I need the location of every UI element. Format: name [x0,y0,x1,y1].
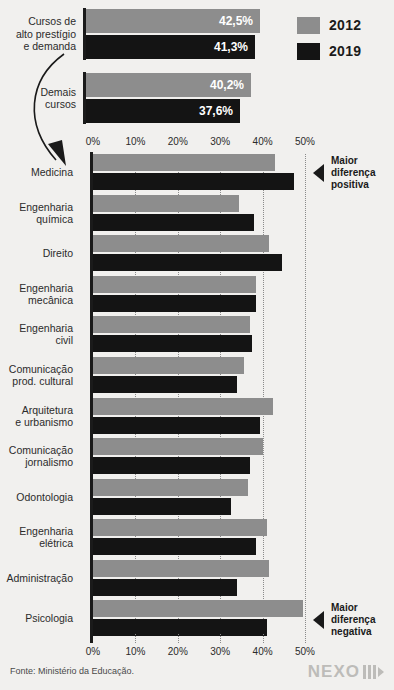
bar-row-group [93,154,305,195]
bar-row-group [93,519,305,560]
summary-bar-value-2012: 42,5% [219,14,253,28]
callout-maior-diferenca-positiva: Maior diferença positiva [313,155,391,191]
category-label-line: Engenharia [19,282,73,294]
category-label: Psicologia [0,612,73,624]
category-label-line: jornalismo [25,456,73,468]
triangle-left-icon [313,164,324,182]
bar-row-group [93,357,305,398]
summary-group-demais: Demais cursos 40,2% 37,6% [0,72,290,124]
legend-swatch-2012 [297,17,320,34]
category-label-line: química [36,213,73,225]
x-tick-mark [305,634,306,643]
x-tick-label: 20% [168,646,188,657]
category-label: Medicina [0,166,73,178]
category-label: Engenhariacivil [0,322,73,346]
callout-text: Maior diferença negativa [331,602,391,638]
category-label: Comunicaçãoprod. cultural [0,363,73,387]
bar-row-group [93,438,305,479]
bar-2019 [93,457,250,474]
x-tick-label: 0% [86,646,100,657]
bar-row-group [93,316,305,357]
category-label-line: Comunicação [9,363,73,375]
x-tick-label: 40% [253,136,273,147]
category-label: Comunicaçãojornalismo [0,444,73,468]
nexo-triangle-icon [378,667,384,677]
legend-item-2019: 2019 [297,40,392,62]
main-chart: 0%10%20%30%40%50% MedicinaEngenhariaquím… [0,132,394,662]
x-tick-mark [135,634,136,643]
bar-2019 [93,538,256,555]
bar-2012 [93,479,248,496]
bar-2012 [93,560,269,577]
summary-label-prestigio: Cursos de alto prestígio e demanda [0,15,83,53]
x-tick-label: 40% [253,646,273,657]
bar-2012 [93,357,244,374]
category-label-line: Administração [6,572,73,584]
bar-row-group [93,235,305,276]
x-tick-label: 20% [168,136,188,147]
bar-row-group [93,560,305,601]
category-label-line: mecânica [28,294,73,306]
chart-legend: 2012 2019 [297,14,392,66]
category-label-line: prod. cultural [12,375,73,387]
category-label: Engenhariaelétrica [0,525,73,549]
bar-2012 [93,519,267,536]
category-label: Odontologia [0,491,73,503]
summary-bar-value-2012: 40,2% [210,78,244,92]
category-label: Direito [0,247,73,259]
summary-bar-2019: 41,3% [86,35,255,59]
summary-label-line2: cursos [45,98,76,110]
plot-area [93,154,305,641]
summary-label-line1: Cursos de [28,15,76,27]
summary-label-line3: e demanda [23,40,76,52]
x-tick-label: 30% [210,646,230,657]
bar-2019 [93,173,294,190]
x-tick-mark [220,634,221,643]
bar-2012 [93,235,269,252]
summary-bars-demais: 40,2% 37,6% [86,72,290,124]
legend-label-2012: 2012 [329,17,361,33]
category-label-line: Direito [43,247,73,259]
bar-2012 [93,154,275,171]
bar-2012 [93,316,250,333]
x-axis-ticks-top: 0%10%20%30%40%50% [93,136,305,150]
bar-2019 [93,214,254,231]
callout-text: Maior diferença positiva [331,155,391,191]
bar-row-group [93,479,305,520]
summary-label-line2: alto prestígio [16,28,76,40]
x-tick-label: 50% [295,136,315,147]
x-tick-mark [263,634,264,643]
summary-label-demais: Demais cursos [0,86,83,111]
summary-bar-2012: 40,2% [86,73,251,97]
category-label: Administração [0,572,73,584]
category-label-line: Engenharia [19,525,73,537]
category-label: Arquiteturae urbanismo [0,404,73,428]
nexo-bars-icon [363,665,376,679]
bar-row-group [93,398,305,439]
footer: Fonte: Ministério da Educação. NEXO [0,662,394,684]
summary-bar-2012: 42,5% [86,9,260,33]
category-label-line: Medicina [31,166,73,178]
bar-row-group [93,600,305,641]
summary-bars-prestigio: 42,5% 41,3% [86,8,290,60]
bar-2019 [93,417,260,434]
summary-bar-value-2019: 37,6% [199,104,233,118]
summary-label-line1: Demais [40,86,76,98]
bar-2019 [93,579,237,596]
legend-item-2012: 2012 [297,14,392,36]
legend-label-2019: 2019 [329,43,361,59]
legend-swatch-2019 [297,43,320,60]
x-tick-label: 10% [125,136,145,147]
x-tick-mark [178,634,179,643]
category-label-line: e urbanismo [15,416,73,428]
category-label-line: Comunicação [9,444,73,456]
category-label-line: Arquitetura [22,404,73,416]
x-tick-label: 0% [86,136,100,147]
x-tick-label: 30% [210,136,230,147]
bar-2012 [93,195,239,212]
category-label-line: civil [56,334,74,346]
triangle-left-icon [313,611,324,629]
bar-2019 [93,498,231,515]
bar-2019 [93,335,252,352]
category-label-line: Engenharia [19,201,73,213]
